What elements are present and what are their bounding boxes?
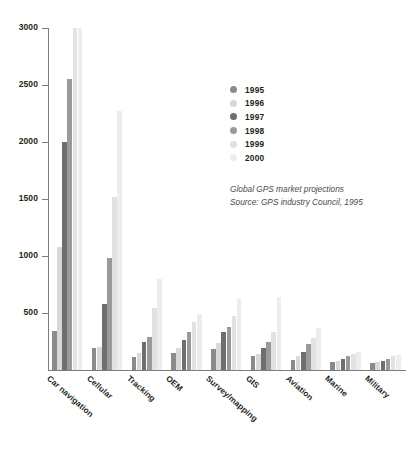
- bar: [237, 299, 242, 370]
- bar: [311, 338, 316, 370]
- legend-label: 2000: [245, 153, 264, 163]
- bar: [197, 314, 202, 370]
- bar: [221, 332, 226, 370]
- bar: [381, 361, 386, 370]
- bar: [277, 297, 282, 370]
- legend-label: 1997: [245, 112, 264, 122]
- x-axis-category-label: OEM: [164, 374, 184, 393]
- bar: [232, 316, 237, 370]
- bar: [386, 359, 391, 370]
- bar: [346, 356, 351, 370]
- gps-market-bar-chart: 50010001500200025003000 Car navigationCe…: [0, 0, 414, 452]
- bar: [67, 79, 72, 370]
- bar: [216, 343, 221, 370]
- bar-group: [132, 28, 163, 370]
- bar: [316, 328, 321, 370]
- x-axis-category-label: Marine: [324, 374, 350, 399]
- legend-item: 1999: [230, 137, 264, 151]
- bar: [117, 111, 122, 370]
- legend-swatch-icon: [230, 154, 237, 161]
- bar: [256, 354, 261, 370]
- y-axis-tick-label: 2500: [19, 79, 38, 89]
- y-axis-tick: 1000: [0, 256, 48, 257]
- bar: [187, 332, 192, 370]
- bar: [391, 356, 396, 370]
- y-axis-tick-label: 2000: [19, 136, 38, 146]
- legend-item: 1998: [230, 124, 264, 138]
- bar: [182, 340, 187, 370]
- bar: [132, 357, 137, 370]
- y-axis-tick-label: 1500: [19, 193, 38, 203]
- chart-caption: Global GPS market projections Source: GP…: [230, 183, 363, 209]
- bar: [301, 352, 306, 370]
- y-axis-tick-label: 500: [24, 307, 38, 317]
- y-axis-tick-label: 1000: [19, 250, 38, 260]
- bar: [375, 362, 380, 370]
- legend-swatch-icon: [230, 127, 237, 134]
- bar: [271, 332, 276, 370]
- bar: [266, 342, 271, 371]
- bar: [107, 258, 112, 370]
- legend-item: 2000: [230, 151, 264, 165]
- bar: [192, 322, 197, 370]
- legend-label: 1996: [245, 98, 264, 108]
- bar: [176, 348, 181, 370]
- bar: [62, 142, 67, 370]
- bar: [152, 308, 157, 370]
- caption-line-1: Global GPS market projections: [230, 183, 363, 196]
- legend-swatch-icon: [230, 113, 237, 120]
- legend-item: 1996: [230, 97, 264, 111]
- x-axis-category-label: Cellular: [85, 374, 114, 401]
- y-axis-tick: 1500: [0, 199, 48, 200]
- legend-swatch-icon: [230, 141, 237, 148]
- bar: [396, 355, 401, 370]
- bar: [137, 353, 142, 370]
- x-axis-category-label: Military: [363, 374, 391, 400]
- bar: [261, 348, 266, 370]
- caption-line-2: Source: GPS industry Council, 1995: [230, 196, 363, 209]
- bar: [330, 362, 335, 370]
- bar: [296, 356, 301, 370]
- bar: [78, 28, 83, 370]
- y-axis-tick: 3000: [0, 28, 48, 29]
- legend-label: 1999: [245, 139, 264, 149]
- bar: [97, 347, 102, 370]
- bar: [370, 363, 375, 370]
- y-axis-tick: 2000: [0, 142, 48, 143]
- x-axis-category-label: Tracking: [125, 374, 157, 403]
- chart-legend: 199519961997199819992000: [230, 83, 264, 165]
- bar: [92, 348, 97, 370]
- bar: [336, 361, 341, 370]
- bar: [57, 247, 62, 370]
- x-axis-line: [48, 370, 406, 371]
- bar: [112, 197, 117, 370]
- bar: [306, 344, 311, 370]
- bar: [351, 354, 356, 370]
- legend-label: 1995: [245, 85, 264, 95]
- bar: [52, 331, 57, 370]
- legend-swatch-icon: [230, 100, 237, 107]
- y-axis-tick: 500: [0, 313, 48, 314]
- y-axis-tick: [0, 370, 48, 371]
- legend-item: 1995: [230, 83, 264, 97]
- bar-group: [52, 28, 83, 370]
- bar: [147, 337, 152, 370]
- bar: [102, 304, 107, 370]
- bar: [211, 349, 216, 370]
- bar: [171, 353, 176, 370]
- bar: [291, 360, 296, 370]
- y-axis-tick: 2500: [0, 85, 48, 86]
- bar-group: [370, 28, 401, 370]
- x-axis-category-label: GIS: [244, 374, 261, 390]
- bar: [341, 359, 346, 370]
- legend-item: 1997: [230, 110, 264, 124]
- y-axis-tick-label: 3000: [19, 22, 38, 32]
- bar: [142, 342, 147, 371]
- bar: [227, 327, 232, 370]
- x-axis-category-label: Aviation: [284, 374, 315, 402]
- bar: [157, 279, 162, 370]
- bar-group: [92, 28, 123, 370]
- bar-group: [171, 28, 202, 370]
- bar: [251, 356, 256, 370]
- legend-swatch-icon: [230, 86, 237, 93]
